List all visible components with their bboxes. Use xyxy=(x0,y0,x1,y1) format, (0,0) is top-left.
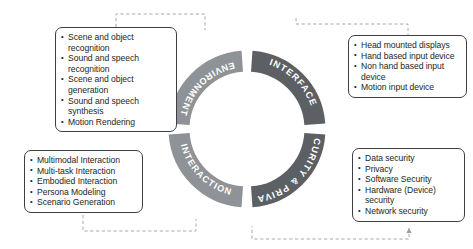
list-item: Persona Modeling xyxy=(30,187,137,198)
info-box-interaction: Multimodal Interaction Multi-task Intera… xyxy=(24,150,143,213)
list-item: Network security xyxy=(358,206,459,217)
info-box-environment: Scene and object recognition Sound and s… xyxy=(55,27,177,132)
diagram-canvas: ENVIRONMENT INTERFACE SECURITY & PRIVACY… xyxy=(0,0,473,249)
list-item: Hand based input device xyxy=(354,51,461,62)
list-item: Sound and speech synthesis xyxy=(61,96,171,117)
list-item: Multi-task Interaction xyxy=(30,166,137,177)
list-item: Motion Rendering xyxy=(61,117,171,128)
list-item: Software Security xyxy=(358,174,459,185)
list-item: Scene and object generation xyxy=(61,74,171,95)
security-item-list: Data security Privacy Software Security … xyxy=(358,153,459,217)
list-item: Multimodal Interaction xyxy=(30,155,137,166)
list-item: Motion input device xyxy=(354,82,461,93)
list-item: Embodied Interaction xyxy=(30,176,137,187)
list-item: Privacy xyxy=(358,164,459,175)
environment-item-list: Scene and object recognition Sound and s… xyxy=(61,32,171,127)
list-item: Head mounted displays xyxy=(354,40,461,51)
list-item: Non hand based input device xyxy=(354,61,461,82)
interface-item-list: Head mounted displays Hand based input d… xyxy=(354,40,461,93)
list-item: Sound and speech recognition xyxy=(61,53,171,74)
list-item: Hardware (Device) security xyxy=(358,185,459,206)
list-item: Data security xyxy=(358,153,459,164)
list-item: Scenario Generation xyxy=(30,197,137,208)
info-box-interface: Head mounted displays Hand based input d… xyxy=(348,35,467,98)
info-box-security-privacy: Data security Privacy Software Security … xyxy=(352,148,465,222)
interaction-item-list: Multimodal Interaction Multi-task Intera… xyxy=(30,155,137,208)
list-item: Scene and object recognition xyxy=(61,32,171,53)
